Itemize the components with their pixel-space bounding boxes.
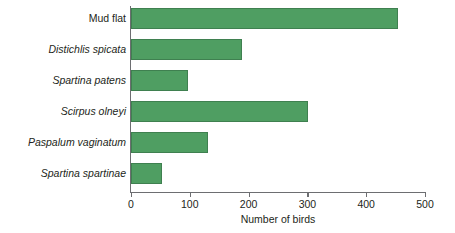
x-tick-mark-100	[190, 193, 191, 197]
bar-3[interactable]	[131, 101, 308, 122]
x-tick-mark-200	[249, 193, 250, 197]
x-tick-mark-400	[366, 193, 367, 197]
y-axis-label-1: Distichlis spicata	[0, 39, 126, 60]
bar-5[interactable]	[131, 163, 162, 184]
category-label-text: Paspalum vaginatum	[28, 136, 126, 148]
y-axis-label-5: Spartina spartinae	[0, 163, 126, 184]
bar-1[interactable]	[131, 39, 242, 60]
y-axis-label-3: Scirpus olneyi	[0, 101, 126, 122]
x-tick-label-100: 100	[170, 198, 210, 211]
category-label-text: Spartina patens	[52, 74, 126, 86]
category-label-text: Scirpus olneyi	[61, 105, 126, 117]
x-axis-title: Number of birds	[131, 213, 425, 225]
y-axis-label-4: Paspalum vaginatum	[0, 132, 126, 153]
y-axis-label-0: Mud flat	[0, 8, 126, 29]
x-axis-line	[130, 192, 426, 193]
y-axis-label-2: Spartina patens	[0, 70, 126, 91]
bar-4[interactable]	[131, 132, 208, 153]
bar-0[interactable]	[131, 8, 398, 29]
bar-chart: Mud flat Distichlis spicata Spartina pat…	[0, 0, 455, 233]
x-tick-mark-0	[131, 193, 132, 197]
bar-2[interactable]	[131, 70, 188, 91]
x-tick-mark-300	[307, 193, 308, 197]
category-label-text: Distichlis spicata	[48, 43, 126, 55]
category-label-text: Spartina spartinae	[41, 167, 126, 179]
x-tick-mark-500	[425, 193, 426, 197]
x-tick-label-0: 0	[111, 198, 151, 211]
x-tick-label-500: 500	[405, 198, 445, 211]
x-tick-label-300: 300	[287, 198, 327, 211]
plot-area	[131, 6, 425, 192]
category-label-text: Mud flat	[89, 12, 126, 24]
x-tick-label-400: 400	[346, 198, 386, 211]
x-tick-label-200: 200	[229, 198, 269, 211]
